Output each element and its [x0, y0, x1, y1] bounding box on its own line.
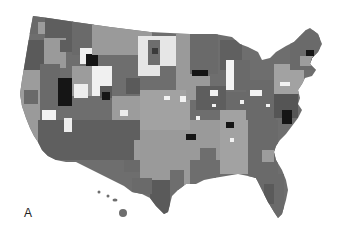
hawaii-island-oahu	[107, 195, 110, 198]
hawaii-islands	[98, 191, 128, 218]
hawaii-island-kauai	[98, 191, 101, 194]
contiguous-us	[20, 14, 322, 220]
hawaii-island-maui	[113, 199, 118, 202]
us-choropleth-map	[0, 0, 353, 238]
panel-label: A	[24, 206, 32, 220]
hawaii-island-big	[119, 209, 127, 217]
